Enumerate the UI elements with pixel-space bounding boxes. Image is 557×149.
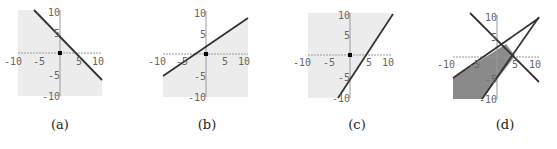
svg-text:10: 10 — [48, 7, 60, 18]
panel-c: -10 -5 5 10 10 5 -5 -10 (c) — [280, 0, 420, 149]
caption-b: (b) — [187, 117, 227, 132]
svg-text:-10: -10 — [188, 92, 206, 103]
svg-text:-10: -10 — [293, 57, 311, 68]
svg-text:5: 5 — [200, 29, 206, 40]
svg-text:-10: -10 — [148, 56, 166, 67]
plot-a: -10 -5 5 10 10 5 -5 -10 — [0, 0, 140, 110]
panel-b: -10 -5 5 10 10 5 -5 -10 (b) — [140, 0, 280, 149]
caption-a: (a) — [40, 117, 80, 132]
svg-text:10: 10 — [338, 10, 350, 21]
plot-b: -10 -5 5 10 10 5 -5 -10 — [140, 0, 280, 110]
svg-text:-5: -5 — [338, 72, 350, 83]
svg-text:5: 5 — [366, 57, 372, 68]
svg-text:5: 5 — [222, 56, 228, 67]
svg-text:-5: -5 — [48, 70, 60, 81]
svg-text:-5: -5 — [176, 56, 188, 67]
svg-text:10: 10 — [92, 56, 104, 67]
svg-text:-10: -10 — [437, 59, 455, 70]
svg-text:-5: -5 — [33, 56, 45, 67]
svg-text:10: 10 — [238, 56, 250, 67]
panel-a: -10 -5 5 10 10 5 -5 -10 (a) — [0, 0, 140, 149]
svg-text:10: 10 — [382, 57, 394, 68]
svg-text:-5: -5 — [485, 74, 497, 85]
plot-c: -10 -5 5 10 10 5 -5 -10 — [280, 0, 420, 110]
svg-text:-10: -10 — [4, 56, 22, 67]
svg-text:10: 10 — [485, 12, 497, 23]
svg-text:-5: -5 — [194, 71, 206, 82]
origin-marker — [348, 53, 352, 57]
svg-text:-10: -10 — [332, 93, 350, 104]
origin-marker — [204, 52, 208, 56]
svg-text:5: 5 — [512, 59, 518, 70]
caption-c: (c) — [337, 117, 377, 132]
svg-text:-10: -10 — [42, 91, 60, 102]
caption-d: (d) — [485, 117, 525, 132]
panel-d: -10 -5 5 10 10 5 -5 -10 (d) — [417, 0, 557, 149]
svg-text:5: 5 — [54, 28, 60, 39]
origin-marker — [58, 51, 62, 55]
svg-text:10: 10 — [529, 59, 541, 70]
svg-text:-5: -5 — [323, 57, 335, 68]
svg-text:5: 5 — [344, 30, 350, 41]
svg-text:5: 5 — [491, 32, 497, 43]
svg-text:-5: -5 — [468, 59, 480, 70]
svg-text:10: 10 — [194, 8, 206, 19]
plot-d: -10 -5 5 10 10 5 -5 -10 — [417, 0, 557, 110]
svg-text:5: 5 — [76, 56, 82, 67]
svg-text:-10: -10 — [479, 94, 497, 105]
